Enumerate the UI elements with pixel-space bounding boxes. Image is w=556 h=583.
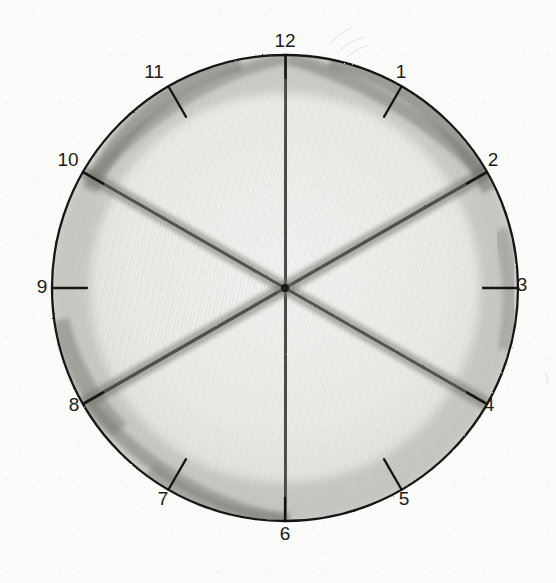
- stray-mark-top: [330, 28, 352, 44]
- hour-label-9: 9: [37, 276, 48, 297]
- hour-label-4: 4: [484, 394, 495, 415]
- sketch-page: 1 2 3 4 5 6 7 8 9 10 11 12: [0, 0, 556, 583]
- hour-label-3: 3: [517, 274, 528, 295]
- hour-label-5: 5: [399, 488, 410, 509]
- hour-label-10: 10: [57, 149, 78, 170]
- hour-label-7: 7: [158, 488, 169, 509]
- hour-label-11: 11: [144, 61, 164, 82]
- hour-label-2: 2: [488, 149, 499, 170]
- hour-label-12: 12: [274, 30, 295, 51]
- hour-label-8: 8: [69, 394, 80, 415]
- stray-mark-right: [545, 372, 548, 384]
- stray-mark-top-3: [348, 45, 370, 56]
- hour-label-1: 1: [396, 61, 407, 82]
- center-point-dot: [281, 284, 289, 292]
- clock-circle-figure: 1 2 3 4 5 6 7 8 9 10 11 12: [0, 0, 556, 583]
- hour-label-6: 6: [280, 523, 291, 544]
